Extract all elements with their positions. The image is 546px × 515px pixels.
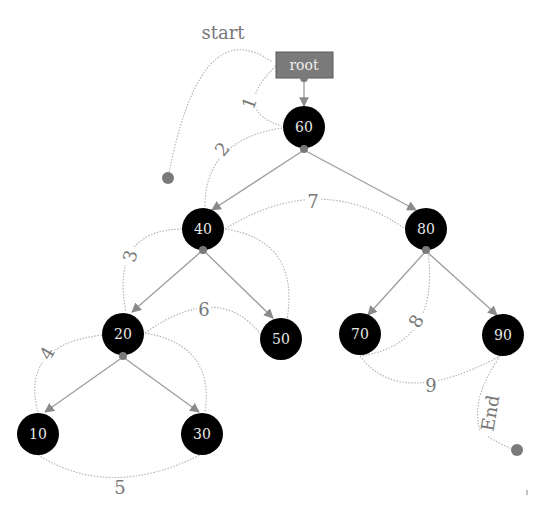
root-label: root (289, 57, 319, 73)
root-box: root (276, 52, 333, 82)
tree-diagram: root 60 40 80 20 50 70 90 10 30 (0, 0, 546, 515)
node-50: 50 (260, 318, 302, 360)
node-label: 60 (295, 119, 313, 135)
node-label: 80 (417, 221, 435, 237)
start-label: start (201, 22, 245, 43)
node-label: 30 (193, 426, 211, 442)
node-label: 20 (114, 326, 132, 342)
edge-20-10 (45, 357, 123, 412)
path-step-3 (123, 229, 182, 312)
edge-40-50 (203, 250, 273, 318)
node-label: 70 (351, 326, 369, 342)
path-start (168, 50, 272, 178)
path-40-50-arc (225, 229, 289, 320)
edge-80-90 (426, 251, 497, 315)
node-40: 40 (182, 208, 224, 254)
edge-40-20 (132, 250, 203, 312)
edge-80-70 (368, 251, 426, 315)
node-60: 60 (283, 106, 325, 153)
step-label-7: 7 (307, 191, 318, 212)
traversal-paths (35, 50, 515, 478)
step-label-9: 9 (425, 375, 436, 396)
step-label-5: 5 (114, 477, 125, 498)
step-label-6: 6 (198, 299, 209, 320)
path-20-30-arc (145, 333, 206, 412)
node-90: 90 (482, 314, 524, 356)
node-label: 90 (494, 327, 512, 343)
node-label: 50 (272, 331, 290, 347)
node-70: 70 (339, 313, 381, 355)
end-dot (511, 444, 523, 456)
node-80: 80 (405, 208, 447, 254)
step-labels: start 1 2 3 4 5 6 7 8 9 End (35, 22, 503, 498)
node-label: 40 (194, 221, 212, 237)
node-10: 10 (17, 413, 59, 455)
step-label-3: 3 (118, 248, 141, 264)
node-label: 10 (29, 426, 47, 442)
edge-60-80 (304, 150, 416, 210)
path-step-5 (38, 455, 200, 478)
node-20: 20 (102, 313, 144, 360)
node-30: 30 (181, 413, 223, 455)
edge-20-30 (123, 357, 199, 412)
start-dot (162, 172, 174, 184)
